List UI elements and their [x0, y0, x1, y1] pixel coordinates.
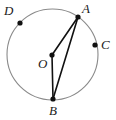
- point-label-d: D: [4, 4, 13, 17]
- point-dot-a: [75, 14, 80, 19]
- point-label-o: O: [38, 57, 47, 70]
- point-label-c: C: [101, 38, 110, 51]
- point-dot-d: [17, 20, 22, 25]
- point-label-a: A: [82, 2, 90, 15]
- point-dot-o: [49, 52, 54, 57]
- circle-diagram-svg: [0, 0, 116, 120]
- chord-segment-ab: [53, 17, 78, 99]
- point-dot-c: [92, 42, 97, 47]
- point-label-b: B: [49, 104, 57, 117]
- geometry-diagram-canvas: D A C O B: [0, 0, 116, 120]
- point-dot-b: [50, 96, 55, 101]
- radius-segment-ob: [52, 55, 53, 99]
- radius-segment-oa: [52, 17, 78, 55]
